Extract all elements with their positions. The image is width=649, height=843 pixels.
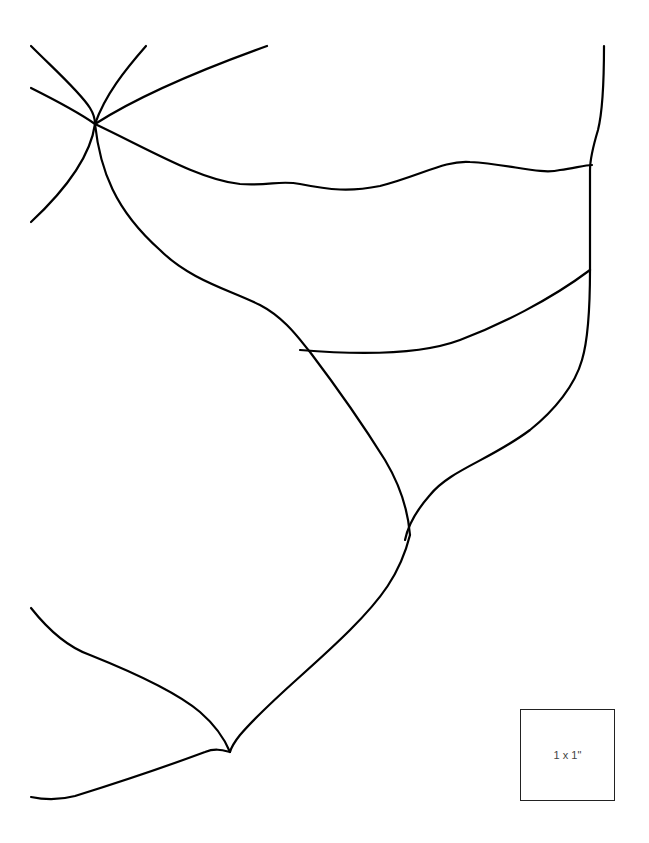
scale-label: 1 x 1" (554, 749, 582, 761)
line-top-left-a (31, 46, 95, 124)
scale-reference-box: 1 x 1" (520, 709, 615, 801)
line-right-edge (405, 46, 604, 540)
line-top-c (95, 46, 146, 124)
line-mid-band (300, 270, 590, 353)
line-bottom (31, 750, 230, 799)
line-center-spine (95, 124, 410, 535)
line-lower-left (31, 608, 230, 752)
line-upper-band (95, 124, 592, 190)
line-lower-right (230, 535, 410, 752)
line-left-out (31, 124, 95, 222)
line-top-left-b (31, 88, 95, 124)
line-top-d (95, 46, 267, 124)
